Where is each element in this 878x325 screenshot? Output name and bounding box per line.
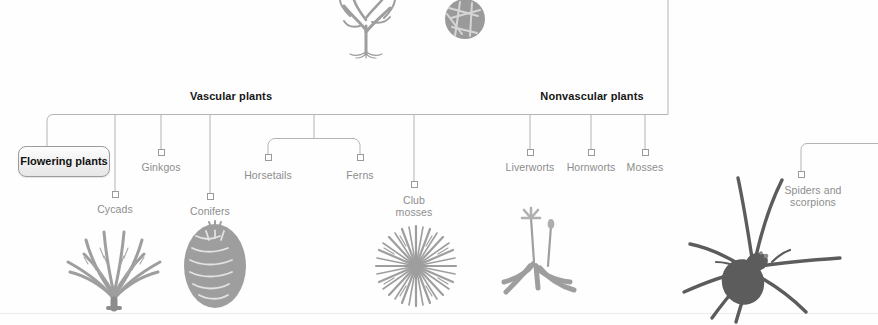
diatom-illustration [445, 0, 485, 39]
leaf-label-horsetails: Horsetails [218, 170, 318, 182]
club-moss-illustration [376, 226, 456, 306]
spiders-connector [801, 144, 878, 175]
phylogeny-diagram: Vascular plants Nonvascular plants Flowe… [0, 0, 878, 325]
node-marker-cycads[interactable] [112, 191, 119, 198]
green-alga-illustration [340, 0, 395, 58]
leaf-label-mosses: Mosses [595, 162, 695, 174]
conifer-cone-illustration [184, 221, 246, 308]
liverwort-illustration [504, 208, 574, 292]
leaf-label-conifers: Conifers [160, 206, 260, 218]
node-marker-liverworts[interactable] [527, 149, 534, 156]
node-marker-club-mosses[interactable] [411, 181, 418, 188]
leaf-label-club-mosses: Club mosses [364, 195, 464, 218]
node-marker-hornworts[interactable] [588, 149, 595, 156]
node-flowering-plants[interactable]: Flowering plants [18, 146, 110, 177]
node-marker-conifers[interactable] [207, 193, 214, 200]
leaf-label-spiders-and-scorpions: Spiders and scorpions [763, 185, 863, 208]
header-vascular-plants: Vascular plants [131, 90, 331, 102]
leaf-label-ferns: Ferns [310, 170, 410, 182]
header-nonvascular-plants: Nonvascular plants [492, 90, 692, 102]
node-marker-mosses[interactable] [642, 149, 649, 156]
node-marker-horsetails[interactable] [265, 154, 272, 161]
flowering-plants-connector [47, 115, 59, 147]
leaf-label-ginkgos: Ginkgos [111, 162, 211, 174]
cycad-illustration [68, 232, 160, 308]
node-marker-spiders-and-scorpions[interactable] [798, 171, 805, 178]
node-marker-ginkgos[interactable] [158, 149, 165, 156]
node-marker-ferns[interactable] [357, 154, 364, 161]
leaf-label-cycads: Cycads [65, 204, 165, 216]
